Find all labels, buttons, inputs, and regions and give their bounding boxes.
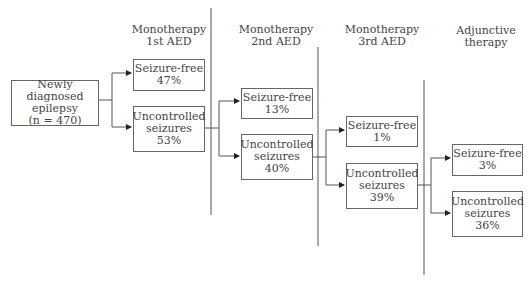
box-value: 13% [265,104,289,116]
box-value: 47% [157,75,181,87]
stage-title-1st-aed: Monotherapy 1st AED [124,24,214,48]
title-line: 2nd AED [251,35,300,48]
stage-title-3rd-aed: Monotherapy 3rd AED [337,24,427,48]
title-line: 3rd AED [358,35,406,48]
title-line: therapy [464,36,507,49]
stage2-seizure-free-box: Seizure-free 13% [241,88,313,119]
box-value: 1% [373,132,390,144]
box-value: 39% [370,192,394,204]
stage1-seizure-free-box: Seizure-free 47% [133,59,205,91]
stage-title-adjunctive: Adjunctive therapy [441,25,529,49]
title-line: 1st AED [146,35,191,48]
box-count: (n = 470) [29,115,82,127]
stage3-seizure-free-box: Seizure-free 1% [346,116,418,147]
adjunctive-seizure-free-box: Seizure-free 3% [452,144,523,176]
box-value: 3% [479,160,496,172]
stage2-uncontrolled-box: Uncontrolled seizures 40% [241,134,313,180]
box-label: Seizure-free [348,120,416,132]
box-label: Seizure-free [243,92,311,104]
box-value: 53% [157,135,181,147]
stage1-uncontrolled-box: Uncontrolled seizures 53% [133,106,205,152]
box-value: 36% [475,220,499,232]
box-text: Newly diagnosed [12,79,98,103]
box-value: 40% [265,163,289,175]
adjunctive-uncontrolled-box: Uncontrolled seizures 36% [452,191,523,237]
stage3-uncontrolled-box: Uncontrolled seizures 39% [346,163,418,209]
stage-title-2nd-aed: Monotherapy 2nd AED [231,24,321,48]
start-box-newly-diagnosed: Newly diagnosed epilepsy (n = 470) [11,80,99,126]
